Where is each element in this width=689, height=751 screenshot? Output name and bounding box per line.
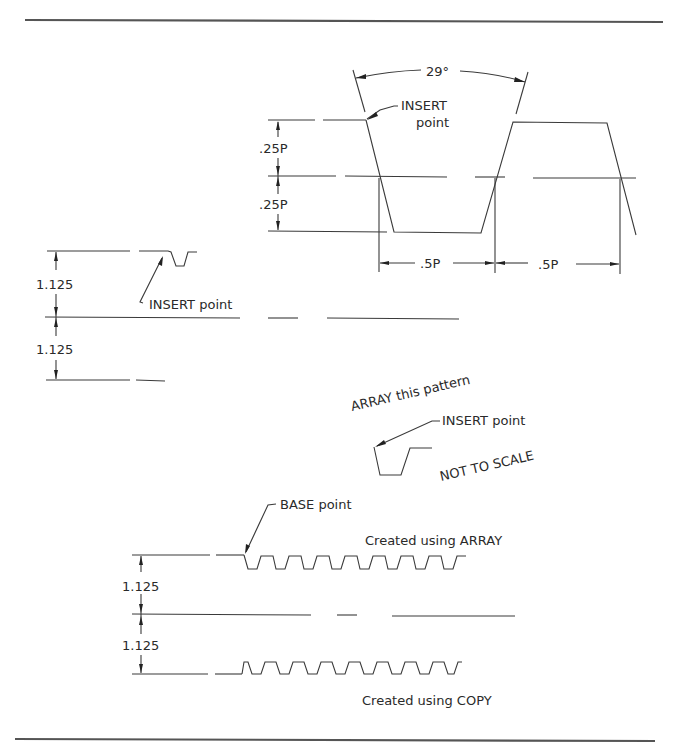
insert-label-line2: point: [416, 115, 449, 130]
dim-arrow: [54, 307, 58, 316]
dim-arrow: [276, 166, 280, 175]
height-dim-upper: 1.125: [122, 579, 159, 594]
height-dim-lower: 1.125: [36, 342, 73, 357]
dim-arrow: [139, 604, 143, 613]
dim-arrow: [610, 262, 619, 266]
pitch-dim-right: .5P: [538, 257, 558, 272]
insert-leader-arrow: [367, 112, 378, 120]
top-border-rule: [25, 20, 663, 22]
array-caption: Created using ARRAY: [365, 533, 502, 548]
base-leader: [246, 504, 276, 552]
result-example: BASE point Created using ARRAY Created u…: [122, 497, 515, 708]
base-label: BASE point: [280, 497, 352, 512]
array-insert-label: INSERT point: [442, 413, 525, 428]
pitch-line-2: [345, 176, 447, 177]
thread-profile-detail: 29° INSERT point .25P .25P .5P .5P: [259, 64, 636, 274]
insert-label-line1: INSERT: [401, 98, 447, 113]
scale-note: NOT TO SCALE: [438, 448, 535, 484]
minor-line-dash: [136, 380, 165, 381]
inserted-tooth: [139, 251, 197, 266]
dim-arrow: [496, 261, 505, 265]
insert-example: 1.125 1.125 INSERT point: [36, 251, 459, 381]
array-insert-leader: [377, 421, 440, 446]
dim-arrow: [54, 318, 58, 327]
copy-caption: Created using COPY: [362, 693, 492, 708]
dim-arrow: [139, 664, 143, 673]
height-dim-lower: 1.125: [122, 638, 159, 653]
dim-arrow: [485, 261, 494, 265]
dim-arrow: [276, 221, 280, 230]
height-dim-lower: .25P: [259, 197, 288, 212]
array-pattern-note: ARRAY this pattern INSERT point NOT TO S…: [349, 372, 535, 484]
dim-arrow: [54, 370, 58, 379]
pitch-line: [45, 317, 240, 318]
height-dim-upper: 1.125: [36, 277, 73, 292]
result-pitch-line: [132, 614, 311, 615]
dim-arrow: [139, 616, 143, 625]
pitch-dim-left: .5P: [420, 256, 440, 271]
angle-arrow-right: [514, 77, 525, 82]
array-tooth-pattern: [374, 447, 432, 475]
dim-arrow: [276, 177, 280, 186]
copy-teeth: [242, 662, 462, 674]
insert-label: INSERT point: [149, 297, 232, 312]
pitch-line-long: [327, 318, 459, 319]
array-insert-arrow: [375, 440, 386, 447]
array-title: ARRAY this pattern: [349, 372, 471, 414]
angle-ext-right: [516, 72, 528, 114]
dim-arrow: [276, 121, 280, 130]
dim-arrow: [54, 252, 58, 261]
array-teeth: [244, 555, 466, 569]
dim-arrow: [380, 261, 389, 265]
bottom-border-rule: [15, 739, 655, 741]
root-line: [268, 231, 387, 232]
dim-arrow: [139, 556, 143, 565]
drawing-canvas: 29° INSERT point .25P .25P .5P .5P: [0, 0, 689, 751]
height-dim-upper: .25P: [259, 141, 288, 156]
angle-label: 29°: [426, 64, 449, 79]
